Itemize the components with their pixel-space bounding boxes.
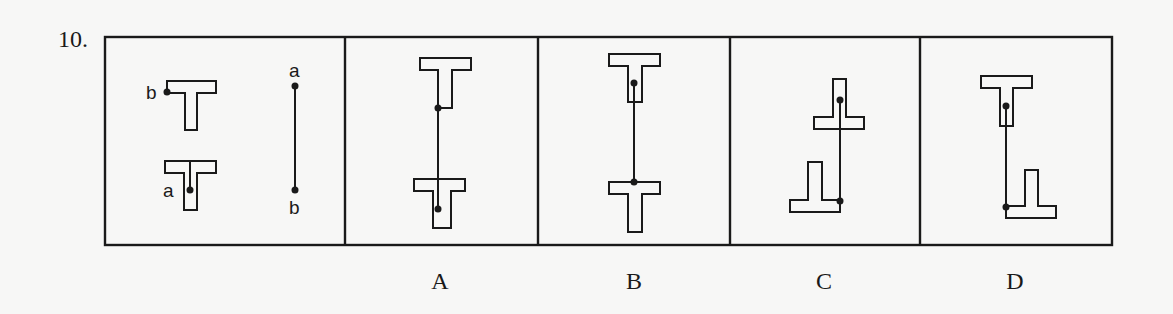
- label-b-t1: b: [146, 82, 157, 103]
- option-d-label[interactable]: D: [1006, 268, 1023, 295]
- t-shape-1: [167, 81, 216, 130]
- label-b-segment: b: [289, 197, 300, 218]
- option-b-label[interactable]: B: [626, 268, 642, 295]
- label-a-t2: a: [163, 180, 174, 201]
- option-b-point-top: [631, 80, 638, 87]
- option-c-label[interactable]: C: [816, 268, 832, 295]
- point-a-t2: [187, 187, 194, 194]
- option-a-point-bottom: [435, 206, 442, 213]
- point-b-segment: [292, 187, 299, 194]
- option-d-point-bottom: [1003, 204, 1010, 211]
- option-c-point-top: [837, 97, 844, 104]
- option-d-figure[interactable]: [981, 76, 1056, 218]
- option-a-figure[interactable]: [414, 58, 471, 228]
- frame: [105, 37, 1112, 245]
- option-d-point-top: [1003, 103, 1010, 110]
- option-a-label[interactable]: A: [431, 268, 448, 295]
- point-b-t1: [164, 89, 171, 96]
- label-a-segment: a: [289, 60, 300, 81]
- prompt-panel: [165, 81, 295, 210]
- option-c-point-bottom: [837, 198, 844, 205]
- puzzle-figure: b a a b: [0, 0, 1173, 314]
- option-c-figure[interactable]: [790, 79, 864, 212]
- option-b-point-bottom: [631, 179, 638, 186]
- point-a-segment: [292, 83, 299, 90]
- option-a-point-top: [435, 105, 442, 112]
